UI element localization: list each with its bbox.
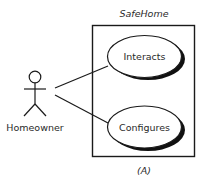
- use-case-diagram: SafeHome Homeowner Interacts Configures …: [0, 0, 207, 184]
- use-case-configures: Configures: [108, 106, 186, 151]
- use-case-label: Interacts: [123, 51, 165, 62]
- figure-caption: (A): [137, 165, 151, 176]
- system-title: SafeHome: [119, 8, 168, 19]
- actor-label: Homeowner: [6, 122, 64, 133]
- association-line-interacts: [55, 66, 108, 88]
- actor-stick-figure-icon: [24, 71, 46, 116]
- use-case-interacts: Interacts: [108, 36, 186, 81]
- association-line-configures: [55, 95, 108, 123]
- use-case-label: Configures: [119, 122, 170, 133]
